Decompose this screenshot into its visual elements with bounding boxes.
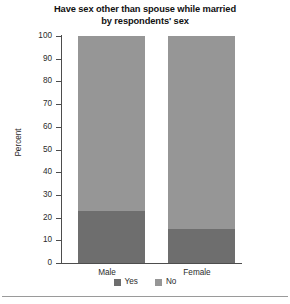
y-tick-label: 0 [28,259,52,267]
y-tick-label: 30 [28,191,52,199]
chart-figure: Have sex other than spouse while married… [0,0,290,304]
legend-swatch-yes [114,279,121,286]
y-tick-mark [56,195,61,196]
y-tick-label: 90 [28,55,52,63]
y-tick-mark [56,218,61,219]
y-tick-label: 60 [28,123,52,131]
chart-title-line-1: Have sex other than spouse while married [0,4,290,16]
y-tick-label: 20 [28,214,52,222]
y-tick-label: 10 [28,236,52,244]
x-axis-line [61,263,242,264]
x-tick-label-male: Male [62,268,152,277]
bar-male[interactable] [78,36,145,263]
bar-male-segment-yes[interactable] [78,211,145,263]
legend-item-yes[interactable]: Yes [114,278,138,286]
y-tick-label: 100 [28,32,52,40]
y-tick-label: 70 [28,100,52,108]
chart-title: Have sex other than spouse while married… [0,4,290,27]
y-axis-label: Percent [14,113,23,173]
bottom-divider [2,296,288,297]
y-tick-label: 40 [28,168,52,176]
y-tick-mark [56,263,61,264]
y-tick-label: 50 [28,146,52,154]
legend-swatch-no [155,279,162,286]
x-tick-label-female: Female [152,268,242,277]
y-tick-mark [56,59,61,60]
bar-female-segment-no[interactable] [168,36,235,229]
y-tick-mark [56,150,61,151]
bar-female[interactable] [168,36,235,263]
y-tick-label: 80 [28,77,52,85]
y-tick-mark [56,240,61,241]
y-tick-mark [56,127,61,128]
legend-label-yes: Yes [125,278,138,286]
legend-label-no: No [166,278,176,286]
bar-female-segment-yes[interactable] [168,229,235,263]
plot-area [62,36,242,263]
y-tick-mark [56,104,61,105]
legend-item-no[interactable]: No [155,278,176,286]
y-tick-mark [56,36,61,37]
chart-legend: Yes No [0,278,290,286]
y-tick-mark [56,81,61,82]
y-tick-mark [56,172,61,173]
chart-title-line-2: by respondents' sex [0,16,290,28]
bar-male-segment-no[interactable] [78,36,145,211]
